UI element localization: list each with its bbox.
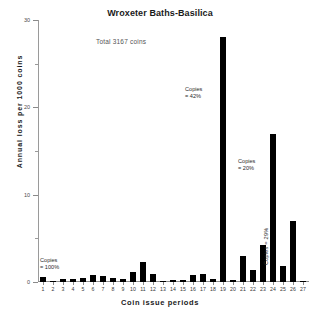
- x-tick-18: [213, 282, 214, 285]
- bar-period-19: [220, 37, 226, 282]
- copies-annotation-period-1: Copies= 100%: [40, 257, 59, 271]
- x-tick-3: [63, 282, 64, 285]
- x-tick-21: [243, 282, 244, 285]
- x-tick-20: [233, 282, 234, 285]
- chart-title: Wroxeter Baths-Basilica: [0, 8, 320, 18]
- x-tick-label-27: 27: [297, 286, 309, 292]
- annotation-line-1: Copies: [40, 257, 59, 264]
- y-tick-label-30: 30: [0, 17, 30, 23]
- bar-period-10: [130, 272, 136, 282]
- x-tick-13: [163, 282, 164, 285]
- x-tick-6: [93, 282, 94, 285]
- x-tick-9: [123, 282, 124, 285]
- x-tick-5: [83, 282, 84, 285]
- x-tick-8: [113, 282, 114, 285]
- annotation-line-2: = 100%: [40, 264, 59, 271]
- bar-period-24: [270, 134, 276, 282]
- copies-annotation-period-24: Copies= 20%: [238, 158, 255, 172]
- y-tick-label-0: 0: [0, 279, 30, 285]
- x-tick-26: [293, 282, 294, 285]
- x-axis-label: Coin issue periods: [0, 298, 320, 307]
- x-tick-22: [253, 282, 254, 285]
- x-tick-2: [53, 282, 54, 285]
- copies-annotation-period-19: Copies= 42%: [185, 86, 202, 100]
- x-tick-24: [273, 282, 274, 285]
- annotation-line-1: Copies = 29%: [263, 228, 270, 265]
- y-tick-0: [33, 282, 38, 283]
- annotation-line-1: Copies: [238, 158, 255, 165]
- x-tick-25: [283, 282, 284, 285]
- x-tick-1: [43, 282, 44, 285]
- x-tick-15: [183, 282, 184, 285]
- y-axis-label: Annual loss per 1000 coins: [16, 42, 23, 182]
- x-tick-17: [203, 282, 204, 285]
- x-tick-19: [223, 282, 224, 285]
- bar-period-12: [150, 274, 156, 282]
- x-tick-27: [303, 282, 304, 285]
- x-tick-4: [73, 282, 74, 285]
- x-tick-14: [173, 282, 174, 285]
- bar-period-26: [290, 221, 296, 282]
- x-tick-16: [193, 282, 194, 285]
- bar-period-22: [250, 270, 256, 282]
- copies-annotation-period-26: Copies = 29%: [263, 228, 270, 265]
- annotation-line-2: = 42%: [185, 93, 202, 100]
- x-tick-10: [133, 282, 134, 285]
- annotation-line-2: = 20%: [238, 165, 255, 172]
- annotation-line-1: Copies: [185, 86, 202, 93]
- x-tick-11: [143, 282, 144, 285]
- bar-period-11: [140, 262, 146, 282]
- bar-period-17: [200, 274, 206, 282]
- bar-period-25: [280, 266, 286, 282]
- bar-period-21: [240, 256, 246, 282]
- x-tick-7: [103, 282, 104, 285]
- y-tick-label-10: 10: [0, 192, 30, 198]
- x-tick-23: [263, 282, 264, 285]
- x-tick-12: [153, 282, 154, 285]
- chart-figure: Wroxeter Baths-Basilica Total 3167 coins…: [0, 0, 320, 313]
